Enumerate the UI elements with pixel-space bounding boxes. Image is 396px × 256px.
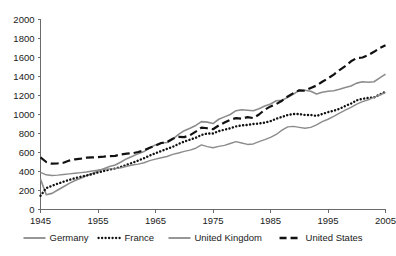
x-tick-label: 1965 [145,215,166,226]
legend-label-france: France [125,232,155,243]
y-tick-label: 200 [19,185,35,196]
x-tick-label: 1985 [260,215,281,226]
legend-label-germany: Germany [50,232,89,243]
y-tick-label: 0 [29,204,34,215]
chart-figure: 0200400600800100012001400160018002000 19… [0,0,396,256]
legend-label-united-states: United States [306,232,363,243]
x-tick-label: 1945 [30,215,51,226]
y-tick-label: 800 [19,128,35,139]
x-tick-label: 2005 [375,215,396,226]
y-tick-label: 1800 [13,33,34,44]
x-tick-label: 1975 [202,215,223,226]
series-line-united-states [41,45,386,164]
y-axis-tick-labels: 0200400600800100012001400160018002000 [13,14,34,215]
line-chart: 0200400600800100012001400160018002000 19… [0,0,396,256]
x-tick-label: 1955 [87,215,108,226]
legend-label-united-kingdom: United Kingdom [194,232,262,243]
y-tick-label: 400 [19,166,35,177]
chart-legend: GermanyFranceUnited KingdomUnited States [24,232,363,243]
y-tick-label: 1400 [13,71,34,82]
series-line-france [41,92,386,196]
y-tick-label: 1200 [13,90,34,101]
y-tick-label: 1600 [13,52,34,63]
x-axis-tick-labels: 1945195519651975198519952005 [30,215,396,226]
y-tick-label: 2000 [13,14,34,25]
x-tick-label: 1995 [317,215,338,226]
y-tick-label: 600 [19,147,35,158]
data-series-group [41,45,386,196]
y-tick-label: 1000 [13,109,34,120]
